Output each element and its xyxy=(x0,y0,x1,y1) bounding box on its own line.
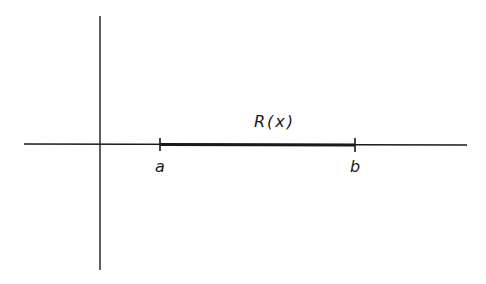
label-a: a xyxy=(155,157,165,176)
label-function: R(x) xyxy=(254,112,295,131)
interval-segment xyxy=(160,145,355,146)
label-b: b xyxy=(350,157,360,176)
interval-diagram: a b R(x) xyxy=(0,0,486,284)
